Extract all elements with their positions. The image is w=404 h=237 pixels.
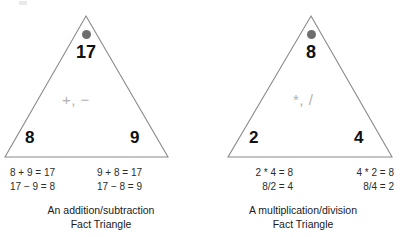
triangle-outline <box>202 0 404 165</box>
equations-group: 2 * 4 = 8 8/2 = 4 4 * 2 = 8 8/4 = 2 <box>202 166 404 196</box>
gray-dot-icon <box>307 30 316 39</box>
caption-line: Fact Triangle <box>202 217 404 231</box>
gray-dot-icon <box>82 30 91 39</box>
panel-caption: A multiplication/division Fact Triangle <box>202 203 404 231</box>
operator-label: *, / <box>293 92 313 107</box>
equation-line: 17 − 9 = 8 <box>10 180 55 194</box>
equation-line: 9 + 8 = 17 <box>97 166 142 180</box>
left-corner-number: 8 <box>25 129 34 146</box>
apex-number: 17 <box>66 43 106 61</box>
caption-line: Fact Triangle <box>0 217 202 231</box>
equation-line: 8/4 = 2 <box>332 180 394 194</box>
equation-line: 2 * 4 = 8 <box>231 166 293 180</box>
equation-column-right: 4 * 2 = 8 8/4 = 2 <box>332 166 394 194</box>
fact-triangle-panel-addition-subtraction: 17 +, − 8 9 8 + 9 = 17 17 − 9 = 8 9 + 8 … <box>0 0 202 237</box>
fact-triangles-figure: 17 +, − 8 9 8 + 9 = 17 17 − 9 = 8 9 + 8 … <box>0 0 404 237</box>
equation-line: 8 + 9 = 17 <box>10 166 55 180</box>
right-corner-number: 4 <box>354 129 363 146</box>
equation-column-left: 8 + 9 = 17 17 − 9 = 8 <box>10 166 55 194</box>
equation-line: 4 * 2 = 8 <box>332 166 394 180</box>
caption-line: An addition/subtraction <box>0 203 202 217</box>
fact-triangle-panel-multiplication-division: 8 *, / 2 4 2 * 4 = 8 8/2 = 4 4 * 2 = 8 8… <box>202 0 404 237</box>
equation-line: 17 − 8 = 9 <box>97 180 142 194</box>
panel-caption: An addition/subtraction Fact Triangle <box>0 203 202 231</box>
equation-column-right: 9 + 8 = 17 17 − 8 = 9 <box>97 166 142 194</box>
operator-label: +, − <box>62 92 90 107</box>
equation-column-left: 2 * 4 = 8 8/2 = 4 <box>231 166 293 194</box>
right-corner-number: 9 <box>130 129 139 146</box>
equations-group: 8 + 9 = 17 17 − 9 = 8 9 + 8 = 17 17 − 8 … <box>0 166 202 196</box>
apex-number: 8 <box>291 43 331 61</box>
equation-line: 8/2 = 4 <box>231 180 293 194</box>
left-corner-number: 2 <box>249 129 258 146</box>
caption-line: A multiplication/division <box>202 203 404 217</box>
